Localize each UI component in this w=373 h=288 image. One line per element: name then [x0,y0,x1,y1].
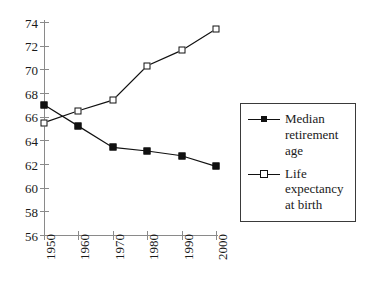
chart-figure: 74727068666462605856 1950196019701980199… [0,0,373,288]
x-tick: 2000 [216,235,217,236]
data-point-marker [109,97,116,104]
legend-key-open-square-icon [248,167,280,182]
y-tick-label: 70 [25,63,38,76]
data-point-marker [144,62,151,69]
series-line [44,29,216,122]
x-tick-label: 1950 [44,234,57,260]
x-tick-label: 1980 [147,234,160,260]
data-point-marker [75,123,82,130]
data-point-marker [213,163,220,170]
y-tick-label: 74 [25,16,38,29]
x-tick: 1990 [182,235,183,236]
x-tick-label: 1970 [113,234,126,260]
y-tick-label: 66 [25,111,38,124]
x-tick-label: 2000 [216,234,229,260]
data-point-marker [178,47,185,54]
y-tick-label: 72 [25,40,38,53]
y-tick-label: 62 [25,158,38,171]
y-tick-label: 58 [25,205,38,218]
x-tick-label: 1960 [78,234,91,260]
y-tick-label: 60 [25,182,38,195]
x-tick: 1950 [44,235,45,236]
y-tick-label: 56 [25,229,38,242]
data-point-marker [41,119,48,126]
chart-legend: Median retirement age Life expectancy at… [240,103,356,222]
legend-item-life-expectancy-at-birth: Life expectancy at birth [248,166,349,214]
legend-item-median-retirement-age: Median retirement age [248,111,349,159]
legend-label: Life expectancy at birth [280,166,349,214]
data-point-marker [75,107,82,114]
y-tick-label: 64 [25,134,38,147]
y-tick-label: 68 [25,87,38,100]
data-point-marker [144,147,151,154]
data-point-marker [213,26,220,33]
x-tick: 1960 [78,235,79,236]
data-point-marker [41,101,48,108]
series-lines [44,22,216,235]
legend-key-filled-square-icon [248,112,280,127]
plot-area: 74727068666462605856 1950196019701980199… [44,22,216,235]
data-point-marker [109,144,116,151]
x-tick: 1970 [113,235,114,236]
data-point-marker [178,152,185,159]
x-tick-label: 1990 [182,234,195,260]
legend-label: Median retirement age [280,111,349,159]
x-tick: 1980 [147,235,148,236]
